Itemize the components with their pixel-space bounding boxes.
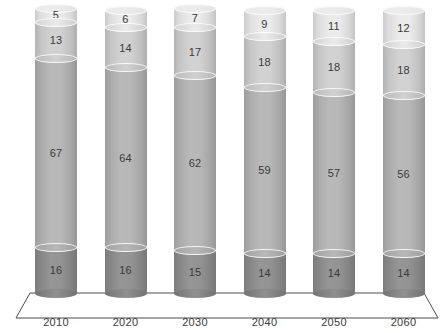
segment-value-label: 11 bbox=[313, 21, 355, 32]
bar-2030[interactable]: 1562177 bbox=[174, 8, 216, 293]
bars-container: 1667135166414615621771459189145718111456… bbox=[0, 0, 441, 333]
segment-value-label: 12 bbox=[383, 22, 425, 33]
segment-cap-highlight bbox=[383, 91, 425, 100]
segment-value-label: 14 bbox=[244, 268, 286, 279]
segment-value-label: 15 bbox=[174, 266, 216, 277]
bar-2050[interactable]: 14571811 bbox=[313, 11, 355, 293]
segment-bottom-cap bbox=[105, 289, 147, 298]
segment-value-label: 62 bbox=[174, 158, 216, 169]
bar-segment[interactable]: 57 bbox=[313, 93, 355, 254]
segment-cap-highlight bbox=[105, 63, 147, 72]
x-axis-label-2040: 2040 bbox=[232, 316, 298, 328]
bar-segment[interactable]: 18 bbox=[244, 36, 286, 87]
bar-2060[interactable]: 14561812 bbox=[383, 11, 425, 293]
bar-segment[interactable]: 17 bbox=[174, 28, 216, 76]
segment-value-label: 14 bbox=[105, 42, 147, 53]
bar-segment[interactable]: 62 bbox=[174, 76, 216, 251]
bar-segment[interactable]: 56 bbox=[383, 95, 425, 253]
segment-cap-highlight bbox=[244, 249, 286, 258]
segment-bottom-cap bbox=[383, 289, 425, 298]
segment-value-label: 18 bbox=[313, 62, 355, 73]
bar-segment[interactable]: 16 bbox=[105, 248, 147, 293]
bar-2020[interactable]: 1664146 bbox=[105, 11, 147, 293]
bar-segment[interactable]: 13 bbox=[35, 22, 77, 59]
x-axis-label-2030: 2030 bbox=[162, 316, 228, 328]
x-axis-label-2060: 2060 bbox=[371, 316, 437, 328]
bar-segment[interactable]: 18 bbox=[313, 42, 355, 93]
bar-segment[interactable]: 18 bbox=[383, 45, 425, 96]
segment-bottom-cap bbox=[35, 289, 77, 298]
segment-cap-highlight bbox=[313, 249, 355, 258]
segment-value-label: 18 bbox=[244, 56, 286, 67]
bar-segment[interactable]: 14 bbox=[105, 28, 147, 68]
segment-value-label: 17 bbox=[174, 46, 216, 57]
segment-cap-highlight bbox=[383, 249, 425, 258]
segment-cap-highlight bbox=[35, 18, 77, 27]
segment-value-label: 7 bbox=[174, 12, 216, 23]
segment-value-label: 57 bbox=[313, 168, 355, 179]
bar-segment[interactable]: 15 bbox=[174, 251, 216, 293]
segment-value-label: 59 bbox=[244, 165, 286, 176]
bar-segment[interactable]: 14 bbox=[313, 254, 355, 294]
bar-2010[interactable]: 1667135 bbox=[35, 8, 77, 293]
x-axis-label-2010: 2010 bbox=[23, 316, 89, 328]
x-axis-label-2020: 2020 bbox=[93, 316, 159, 328]
stacked-bar-chart: 1667135166414615621771459189145718111456… bbox=[0, 0, 441, 333]
segment-cap-highlight bbox=[244, 83, 286, 92]
segment-value-label: 13 bbox=[35, 35, 77, 46]
segment-value-label: 9 bbox=[244, 18, 286, 29]
bar-segment[interactable]: 59 bbox=[244, 87, 286, 253]
bar-segment[interactable]: 14 bbox=[244, 254, 286, 294]
segment-value-label: 16 bbox=[35, 265, 77, 276]
segment-value-label: 16 bbox=[105, 265, 147, 276]
bar-segment[interactable]: 14 bbox=[383, 254, 425, 294]
bar-segment[interactable]: 16 bbox=[35, 248, 77, 293]
segment-value-label: 64 bbox=[105, 152, 147, 163]
segment-value-label: 18 bbox=[383, 65, 425, 76]
segment-value-label: 56 bbox=[383, 169, 425, 180]
segment-bottom-cap bbox=[174, 289, 216, 298]
segment-bottom-cap bbox=[244, 289, 286, 298]
bar-segment[interactable]: 64 bbox=[105, 67, 147, 248]
segment-value-label: 14 bbox=[313, 268, 355, 279]
bar-2040[interactable]: 1459189 bbox=[244, 11, 286, 293]
segment-value-label: 67 bbox=[35, 148, 77, 159]
segment-value-label: 14 bbox=[383, 268, 425, 279]
segment-bottom-cap bbox=[313, 289, 355, 298]
bar-segment[interactable]: 67 bbox=[35, 59, 77, 248]
segment-cap-highlight bbox=[244, 32, 286, 41]
x-axis-label-2050: 2050 bbox=[301, 316, 367, 328]
